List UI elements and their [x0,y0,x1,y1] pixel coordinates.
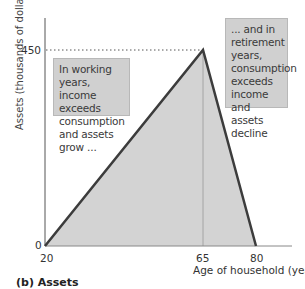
x-axis-label: Age of household (years) [193,264,305,276]
y-tick-450: 450 [21,44,41,56]
y-tick-0: 0 [35,239,42,251]
annotation-retirement-years: ... and in retirement years, consumption… [225,18,288,108]
chart-caption: (b) Assets [16,276,79,289]
x-tick-20: 20 [40,252,53,264]
x-tick-65: 65 [196,252,209,264]
y-axis-label: Assets (thousands of dollars) [14,0,25,130]
annotation-working-years: In working years, income exceeds consump… [53,58,130,116]
x-tick-80: 80 [250,252,263,264]
